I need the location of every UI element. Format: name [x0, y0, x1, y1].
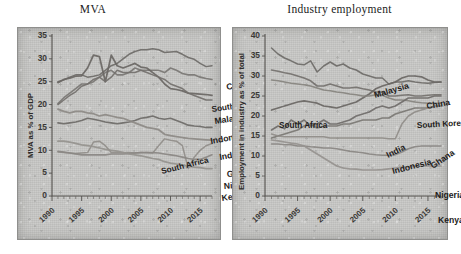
x-tick-label: 2000 — [97, 206, 117, 225]
y-tick-label: 0 — [42, 190, 47, 200]
y-tick-label: 15 — [251, 130, 261, 140]
series-line-south-africa — [272, 80, 441, 103]
y-tick-label: 25 — [38, 76, 48, 86]
series-label-ghana: Ghana — [429, 147, 457, 170]
series-label-india: India — [384, 142, 407, 160]
y-tick-label: 10 — [38, 145, 48, 155]
series-line-malaysia — [272, 48, 441, 84]
x-tick-label: 2005 — [348, 206, 368, 225]
panel-mva: MVA 051015202530351990199520002005201020… — [0, 0, 230, 254]
figure-two-line-charts: MVA 051015202530351990199520002005201020… — [0, 0, 461, 254]
y-tick-label: 20 — [251, 110, 261, 120]
series-line-china — [272, 76, 441, 110]
y-tick-label: 35 — [38, 30, 48, 40]
series-label-indonesia: Indonesia — [391, 156, 433, 175]
x-tick-label: 1990 — [250, 206, 270, 225]
y-tick-label: 40 — [251, 30, 261, 40]
x-tick-label: 2005 — [126, 206, 146, 225]
series-label-south-korea: South Korea — [417, 118, 461, 130]
y-tick-label: 5 — [255, 170, 260, 180]
chart-mva: 05101520253035199019952000200520102015MV… — [0, 0, 230, 254]
y-axis-label: Employment in industry as % of total — [237, 53, 246, 190]
chart-industry-employment: 0510152025303540199019952000200520102015… — [230, 0, 461, 254]
panel-industry-employment: Industry employment 05101520253035401990… — [230, 0, 461, 254]
x-tick-label: 2010 — [381, 206, 401, 225]
x-tick-label: 1995 — [67, 206, 87, 225]
y-tick-label: 10 — [251, 150, 261, 160]
y-tick-label: 35 — [251, 50, 261, 60]
series-line-india — [58, 116, 212, 127]
y-tick-label: 30 — [251, 70, 261, 80]
y-tick-label: 0 — [255, 190, 260, 200]
y-tick-label: 30 — [38, 53, 48, 63]
y-tick-label: 20 — [38, 99, 48, 109]
x-tick-label: 1995 — [283, 206, 303, 225]
y-tick-label: 5 — [42, 167, 47, 177]
x-tick-label: 2000 — [315, 206, 335, 225]
series-line-china — [58, 49, 212, 82]
x-tick-label: 1990 — [37, 206, 57, 225]
y-tick-label: 15 — [38, 122, 48, 132]
y-tick-label: 25 — [251, 90, 261, 100]
series-line-south-korea — [272, 70, 441, 96]
x-tick-label: 2010 — [156, 206, 176, 225]
series-label-south-africa: South Africa — [279, 121, 328, 130]
x-tick-label: 2015 — [413, 206, 433, 225]
series-label-kenya: Kenya — [438, 215, 461, 225]
x-tick-label: 2015 — [185, 206, 205, 225]
y-axis-label: MVA as % of GDP — [26, 93, 35, 158]
series-line-nigeria — [272, 144, 441, 155]
series-label-china: China — [426, 97, 451, 111]
series-label-nigeria: Nigeria — [435, 190, 461, 200]
